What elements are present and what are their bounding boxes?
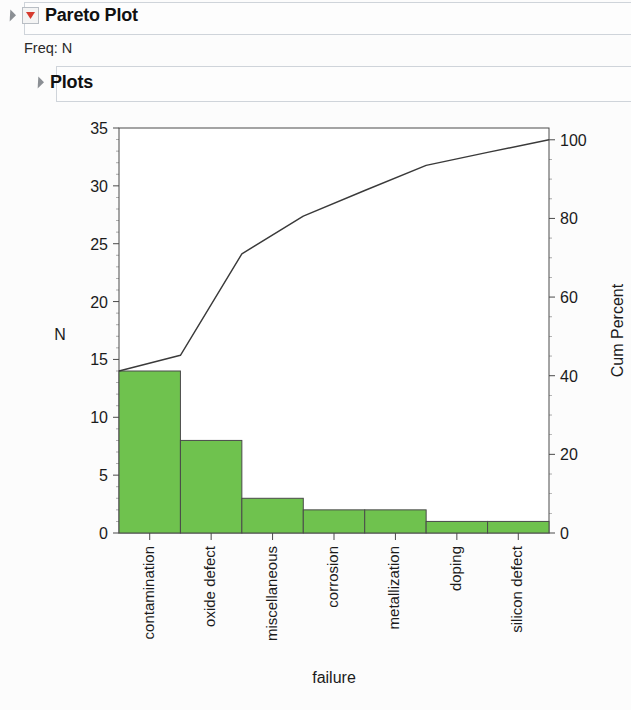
disclosure-triangle-icon[interactable] <box>32 76 44 88</box>
bar[interactable] <box>488 521 549 533</box>
pareto-chart-svg: 05101520253035N020406080100Cum Percentco… <box>0 104 631 710</box>
page-title: Pareto Plot <box>45 5 138 26</box>
y2-axis-tick-label: 20 <box>560 446 578 463</box>
y-axis-tick-label: 10 <box>90 409 108 426</box>
x-axis-category-label: doping <box>447 546 464 591</box>
y-axis-tick-label: 25 <box>90 236 108 253</box>
x-axis-category-label: oxide defect <box>201 545 218 627</box>
y-axis-tick-label: 5 <box>99 467 108 484</box>
y-axis-title: N <box>54 326 66 343</box>
disclosure-triangle-icon[interactable] <box>4 9 16 21</box>
freq-variable-label: Freq: N <box>24 40 72 56</box>
pareto-plot-outline-header[interactable]: Pareto Plot <box>6 5 138 26</box>
jmp-red-report-icon[interactable] <box>22 7 39 24</box>
x-axis-category-label: metallization <box>385 546 402 629</box>
bar[interactable] <box>119 371 180 533</box>
y-axis-tick-label: 20 <box>90 294 108 311</box>
y-axis-tick-label: 30 <box>90 178 108 195</box>
y2-axis-title: Cum Percent <box>609 283 626 377</box>
y2-axis-tick-label: 60 <box>560 289 578 306</box>
x-axis-category-label: silicon defect <box>508 545 525 633</box>
pareto-chart[interactable]: 05101520253035N020406080100Cum Percentco… <box>0 104 631 710</box>
y-axis-tick-label: 0 <box>99 525 108 542</box>
plots-panel <box>56 66 631 102</box>
y2-axis-tick-label: 100 <box>560 132 587 149</box>
y2-axis-tick-label: 0 <box>560 525 569 542</box>
y-axis-tick-label: 15 <box>90 351 108 368</box>
y-axis-tick-label: 35 <box>90 120 108 137</box>
bar[interactable] <box>242 498 303 533</box>
x-axis-category-label: corrosion <box>324 546 341 608</box>
plots-outline-header[interactable]: Plots <box>34 72 93 93</box>
y2-axis-tick-label: 40 <box>560 368 578 385</box>
bar[interactable] <box>365 510 426 533</box>
plots-section-title: Plots <box>50 72 93 93</box>
y2-axis-tick-label: 80 <box>560 210 578 227</box>
x-axis-category-label: contamination <box>140 546 157 639</box>
bar[interactable] <box>303 510 364 533</box>
x-axis-title: failure <box>312 669 356 686</box>
bar[interactable] <box>180 440 241 533</box>
bar[interactable] <box>426 521 487 533</box>
x-axis-category-label: miscellaneous <box>263 546 280 641</box>
